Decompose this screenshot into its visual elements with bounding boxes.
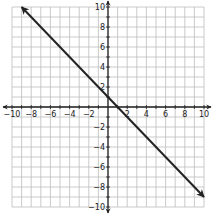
- y-tick-label: 6: [100, 43, 105, 52]
- y-tick-label: −2: [93, 123, 105, 132]
- x-tick-label: −10: [4, 110, 21, 119]
- y-tick-label: 4: [100, 63, 105, 72]
- y-tick-label: −10: [88, 203, 105, 212]
- line-y-equals-negative-x-plus-1: [22, 7, 204, 197]
- y-tick-label: 10: [95, 3, 105, 12]
- x-tick-label: 10: [199, 110, 209, 119]
- plotted-line: [22, 7, 204, 197]
- x-tick-label: −4: [64, 110, 76, 119]
- y-tick-label: −6: [93, 163, 105, 172]
- x-tick-label: 6: [163, 110, 168, 119]
- x-tick-label: 8: [182, 110, 187, 119]
- coordinate-plane: −10−8−6−4−2246810108642−2−4−6−8−10: [0, 0, 214, 215]
- x-tick-label: 4: [144, 110, 149, 119]
- x-tick-label: −8: [25, 110, 37, 119]
- x-tick-label: −2: [83, 110, 95, 119]
- y-tick-label: −4: [93, 143, 105, 152]
- y-tick-label: 8: [100, 23, 105, 32]
- axes: [3, 1, 211, 213]
- y-tick-label: −8: [93, 183, 105, 192]
- x-tick-label: −6: [45, 110, 57, 119]
